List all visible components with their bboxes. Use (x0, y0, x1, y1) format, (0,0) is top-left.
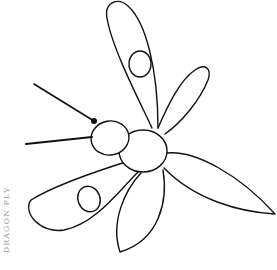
upper-wing-spot (129, 51, 151, 77)
caption-label: DRAGON FLY (2, 165, 12, 270)
right-wing (164, 153, 275, 214)
lower-wing (117, 170, 165, 252)
upper-right-wing (158, 67, 209, 134)
eye (91, 118, 97, 124)
dragonfly-illustration (0, 0, 277, 270)
left-wing-spot (74, 183, 104, 215)
antenna-lower (26, 137, 92, 144)
left-wing (29, 160, 138, 230)
antenna-upper (34, 84, 94, 121)
